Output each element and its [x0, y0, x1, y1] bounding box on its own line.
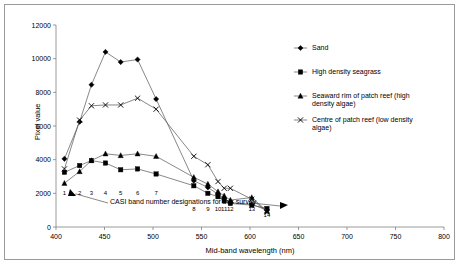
band-number-8: 8 [190, 206, 198, 212]
marker-0-4 [118, 59, 123, 64]
band-number-7: 7 [152, 190, 160, 196]
marker-legend0-legend [298, 45, 303, 50]
marker-1-1 [77, 163, 81, 167]
annotation-text: CASI band number designations for this s… [110, 198, 256, 205]
x-tick-label-600: 600 [239, 233, 261, 240]
series-line-0 [64, 52, 267, 210]
x-tick-label-500: 500 [142, 233, 164, 240]
marker-1-8 [206, 191, 210, 195]
legend-label-0: Sand [312, 44, 424, 53]
marker-1-3 [103, 161, 107, 165]
legend-label-1: High density seagrass [312, 68, 424, 77]
marker-3-5 [135, 96, 140, 101]
x-tick-label-450: 450 [94, 233, 116, 240]
marker-0-0 [62, 156, 67, 161]
marker-1-6 [154, 172, 158, 176]
marker-legend1-legend [298, 70, 302, 74]
y-axis-title: Pixel value [34, 92, 42, 152]
x-axis-title: Mid-band wavelength (nm) [56, 247, 444, 255]
annotation-arrowhead-right [280, 202, 288, 209]
marker-1-4 [118, 168, 122, 172]
y-tick-label-4000: 4000 [18, 156, 51, 163]
marker-2-9 [215, 189, 220, 194]
legend-label-2: Seaward rim of patch reef (high density … [312, 92, 424, 109]
band-number-9: 9 [204, 206, 212, 212]
marker-0-3 [103, 49, 108, 54]
y-tick-label-2000: 2000 [18, 190, 51, 197]
band-number-5: 5 [117, 190, 125, 196]
band-number-4: 4 [102, 190, 110, 196]
marker-2-5 [135, 151, 140, 156]
spectral-signature-chart [0, 0, 461, 266]
marker-1-7 [192, 184, 196, 188]
band-number-1: 1 [60, 190, 68, 196]
marker-2-8 [205, 181, 210, 186]
marker-1-5 [135, 167, 139, 171]
band-number-3: 3 [87, 190, 95, 196]
marker-2-3 [103, 151, 108, 156]
x-tick-label-700: 700 [336, 233, 358, 240]
marker-0-6 [154, 96, 159, 101]
marker-3-8 [205, 162, 210, 167]
band-number-14: 14 [263, 212, 271, 218]
x-tick-label-650: 650 [288, 233, 310, 240]
marker-0-5 [135, 57, 140, 62]
x-tick-label-400: 400 [45, 233, 67, 240]
band-number-13: 13 [248, 206, 256, 212]
legend-label-3: Centre of patch reef (low density algae) [312, 116, 424, 133]
marker-0-2 [89, 82, 94, 87]
marker-3-7 [191, 154, 196, 159]
y-tick-label-10000: 10000 [18, 55, 51, 62]
x-tick-label-750: 750 [385, 233, 407, 240]
band-number-6: 6 [134, 190, 142, 196]
y-tick-label-0: 0 [18, 224, 51, 231]
x-tick-label-800: 800 [433, 233, 455, 240]
y-tick-label-12000: 12000 [18, 22, 51, 29]
band-number-2: 2 [76, 190, 84, 196]
marker-2-0 [62, 180, 67, 185]
marker-3-9 [215, 179, 220, 184]
marker-3-6 [154, 107, 159, 112]
x-tick-label-550: 550 [191, 233, 213, 240]
band-number-12: 12 [226, 206, 234, 212]
